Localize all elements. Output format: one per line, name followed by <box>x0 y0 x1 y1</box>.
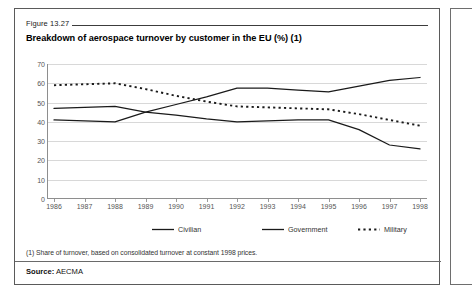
figure-number: Figure 13.27 <box>26 19 72 28</box>
x-tick <box>207 199 208 202</box>
page-title: Breakdown of aerospace turnover by custo… <box>26 33 429 43</box>
x-tick-label: 1986 <box>46 203 62 210</box>
legend-swatch-civilian <box>152 226 174 233</box>
chart-legend: CivilianGovernmentMilitary <box>26 225 430 239</box>
y-tick-label: 40 <box>27 118 45 125</box>
figure-footnote: (1) Share of turnover, based on consolid… <box>26 249 427 256</box>
source-value: AECMA <box>56 267 83 276</box>
x-tick-label: 1989 <box>138 203 154 210</box>
x-tick <box>176 199 177 202</box>
x-tick-label: 1993 <box>260 203 276 210</box>
legend-item-military: Military <box>358 225 407 234</box>
legend-label: Military <box>384 225 407 234</box>
x-tick-label: 1996 <box>351 203 367 210</box>
series-lines <box>47 64 427 199</box>
series-line-government <box>54 106 420 148</box>
x-tick-label: 1991 <box>199 203 215 210</box>
y-tick-label: 10 <box>27 176 45 183</box>
x-tick <box>298 199 299 202</box>
y-tick-label: 70 <box>27 61 45 68</box>
x-tick <box>359 199 360 202</box>
x-tick <box>54 199 55 202</box>
legend-item-civilian: Civilian <box>152 225 201 234</box>
legend-swatch-military <box>358 226 380 233</box>
x-tick-label: 1997 <box>382 203 398 210</box>
x-tick <box>390 199 391 202</box>
source-label: Source: <box>26 267 54 276</box>
x-tick <box>85 199 86 202</box>
x-tick <box>237 199 238 202</box>
legend-label: Government <box>288 225 328 234</box>
legend-swatch-government <box>262 226 284 233</box>
x-tick-label: 1992 <box>229 203 245 210</box>
x-tick <box>420 199 421 202</box>
x-tick-label: 1988 <box>107 203 123 210</box>
x-tick-label: 1995 <box>321 203 337 210</box>
x-tick <box>146 199 147 202</box>
x-tick-label: 1990 <box>168 203 184 210</box>
x-tick <box>115 199 116 202</box>
figure-panel: Figure 13.27 Breakdown of aerospace turn… <box>14 8 440 285</box>
y-tick-label: 60 <box>27 80 45 87</box>
legend-label: Civilian <box>178 225 201 234</box>
figure-header-rule <box>72 25 428 26</box>
x-tick-label: 1994 <box>290 203 306 210</box>
legend-item-government: Government <box>262 225 328 234</box>
chart-area: 010203040506070 198619871988198919901991… <box>23 55 431 220</box>
figure-header: Figure 13.27 <box>26 17 428 30</box>
source-line: Source: AECMA <box>26 267 83 276</box>
footnote-divider <box>15 261 441 262</box>
x-tick-label: 1987 <box>77 203 93 210</box>
x-tick-label: 1998 <box>412 203 428 210</box>
y-tick-label: 20 <box>27 157 45 164</box>
y-tick-label: 50 <box>27 99 45 106</box>
y-tick-label: 0 <box>27 196 45 203</box>
x-tick <box>268 199 269 202</box>
plot-region <box>47 64 427 199</box>
adjacent-figure-panel <box>450 8 472 285</box>
series-line-military <box>54 83 420 125</box>
y-tick-label: 30 <box>27 138 45 145</box>
x-tick <box>329 199 330 202</box>
